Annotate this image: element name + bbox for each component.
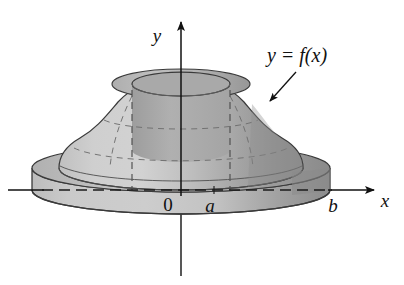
y-axis-label: y <box>151 25 162 46</box>
curve-equation-label: y = f(x) <box>265 44 327 67</box>
curve-label-leader-arrow <box>270 72 296 101</box>
figure-container: y x 0 a b y = f(x) <box>0 0 404 285</box>
tick-label-a: a <box>205 195 215 216</box>
x-axis-label: x <box>380 190 390 211</box>
tick-label-b: b <box>328 195 338 216</box>
origin-label: 0 <box>163 194 173 215</box>
solid-of-revolution-diagram: y x 0 a b y = f(x) <box>0 0 404 285</box>
slab-right-shadow <box>292 168 330 195</box>
